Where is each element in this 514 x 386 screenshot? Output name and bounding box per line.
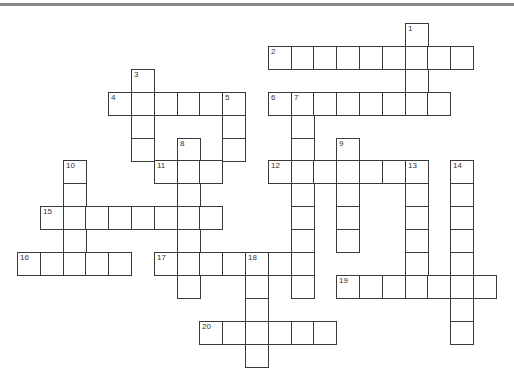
crossword-cell[interactable] — [154, 206, 178, 230]
crossword-cell[interactable] — [450, 46, 474, 70]
crossword-cell[interactable] — [450, 206, 474, 230]
crossword-cell[interactable] — [131, 138, 155, 162]
crossword-cell[interactable] — [222, 252, 246, 276]
crossword-cell[interactable]: 10 — [63, 160, 87, 184]
crossword-cell[interactable] — [177, 206, 201, 230]
crossword-cell[interactable]: 2 — [268, 46, 292, 70]
crossword-cell[interactable] — [450, 252, 474, 276]
crossword-cell[interactable] — [336, 183, 360, 207]
crossword-cell[interactable] — [63, 229, 87, 253]
crossword-cell[interactable] — [63, 206, 87, 230]
crossword-cell[interactable] — [450, 275, 474, 299]
crossword-cell[interactable]: 11 — [154, 160, 178, 184]
crossword-cell[interactable] — [382, 46, 406, 70]
crossword-cell[interactable] — [199, 92, 223, 116]
crossword-cell[interactable] — [450, 321, 474, 345]
crossword-cell[interactable] — [450, 298, 474, 322]
crossword-cell[interactable] — [131, 206, 155, 230]
crossword-cell[interactable] — [85, 252, 109, 276]
crossword-cell[interactable] — [336, 92, 360, 116]
crossword-cell[interactable]: 19 — [336, 275, 360, 299]
crossword-cell[interactable] — [108, 252, 132, 276]
crossword-cell[interactable] — [336, 46, 360, 70]
crossword-cell[interactable]: 12 — [268, 160, 292, 184]
crossword-cell[interactable] — [405, 275, 429, 299]
crossword-cell[interactable] — [427, 92, 451, 116]
crossword-cell[interactable] — [405, 69, 429, 93]
crossword-cell[interactable] — [359, 275, 383, 299]
crossword-cell[interactable] — [427, 275, 451, 299]
crossword-cell[interactable] — [222, 115, 246, 139]
crossword-cell[interactable]: 8 — [177, 138, 201, 162]
crossword-cell[interactable] — [405, 229, 429, 253]
crossword-cell[interactable] — [359, 92, 383, 116]
crossword-cell[interactable] — [291, 138, 315, 162]
crossword-cell[interactable] — [313, 46, 337, 70]
crossword-cell[interactable] — [291, 115, 315, 139]
crossword-cell[interactable] — [405, 183, 429, 207]
crossword-cell[interactable] — [85, 206, 109, 230]
crossword-cell[interactable]: 18 — [245, 252, 269, 276]
crossword-cell[interactable] — [291, 46, 315, 70]
crossword-cell[interactable] — [450, 229, 474, 253]
crossword-cell[interactable] — [291, 275, 315, 299]
crossword-cell[interactable] — [291, 252, 315, 276]
crossword-cell[interactable]: 7 — [291, 92, 315, 116]
crossword-cell[interactable] — [427, 46, 451, 70]
crossword-cell[interactable] — [199, 252, 223, 276]
crossword-cell[interactable] — [405, 206, 429, 230]
crossword-cell[interactable] — [336, 160, 360, 184]
crossword-cell[interactable] — [405, 92, 429, 116]
crossword-cell[interactable] — [245, 344, 269, 368]
crossword-cell[interactable] — [40, 252, 64, 276]
crossword-cell[interactable] — [405, 252, 429, 276]
crossword-cell[interactable] — [473, 275, 497, 299]
crossword-cell[interactable]: 20 — [199, 321, 223, 345]
crossword-cell[interactable] — [291, 229, 315, 253]
crossword-cell[interactable] — [313, 321, 337, 345]
crossword-cell[interactable] — [313, 160, 337, 184]
crossword-cell[interactable]: 6 — [268, 92, 292, 116]
crossword-cell[interactable] — [268, 252, 292, 276]
crossword-cell[interactable] — [63, 252, 87, 276]
crossword-cell[interactable] — [177, 275, 201, 299]
crossword-cell[interactable] — [177, 252, 201, 276]
crossword-cell[interactable] — [291, 321, 315, 345]
crossword-cell[interactable]: 16 — [17, 252, 41, 276]
crossword-cell[interactable] — [450, 183, 474, 207]
crossword-cell[interactable] — [336, 206, 360, 230]
crossword-cell[interactable] — [359, 46, 383, 70]
crossword-cell[interactable]: 5 — [222, 92, 246, 116]
crossword-cell[interactable]: 1 — [405, 23, 429, 47]
crossword-cell[interactable] — [222, 321, 246, 345]
crossword-cell[interactable] — [359, 160, 383, 184]
crossword-cell[interactable] — [222, 138, 246, 162]
crossword-cell[interactable] — [177, 229, 201, 253]
crossword-cell[interactable] — [245, 321, 269, 345]
crossword-cell[interactable] — [336, 229, 360, 253]
crossword-cell[interactable]: 9 — [336, 138, 360, 162]
crossword-cell[interactable] — [291, 183, 315, 207]
crossword-cell[interactable] — [268, 321, 292, 345]
crossword-cell[interactable]: 3 — [131, 69, 155, 93]
crossword-cell[interactable] — [382, 160, 406, 184]
crossword-cell[interactable]: 4 — [108, 92, 132, 116]
crossword-cell[interactable] — [63, 183, 87, 207]
crossword-cell[interactable]: 17 — [154, 252, 178, 276]
crossword-cell[interactable] — [382, 275, 406, 299]
crossword-cell[interactable] — [245, 298, 269, 322]
crossword-cell[interactable] — [199, 160, 223, 184]
crossword-cell[interactable]: 13 — [405, 160, 429, 184]
crossword-cell[interactable] — [199, 206, 223, 230]
crossword-cell[interactable] — [291, 160, 315, 184]
crossword-cell[interactable] — [382, 92, 406, 116]
crossword-cell[interactable] — [405, 46, 429, 70]
crossword-cell[interactable] — [245, 275, 269, 299]
crossword-cell[interactable] — [154, 92, 178, 116]
crossword-cell[interactable] — [108, 206, 132, 230]
crossword-cell[interactable] — [313, 92, 337, 116]
crossword-cell[interactable] — [177, 92, 201, 116]
crossword-cell[interactable] — [131, 115, 155, 139]
crossword-cell[interactable]: 15 — [40, 206, 64, 230]
crossword-cell[interactable]: 14 — [450, 160, 474, 184]
